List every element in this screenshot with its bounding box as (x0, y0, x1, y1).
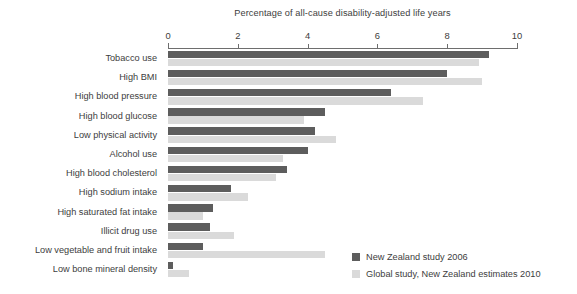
category-label: High sodium intake (0, 183, 157, 202)
category-label: Low physical activity (0, 126, 157, 145)
chart-legend: New Zealand study 2006Global study, New … (352, 248, 572, 282)
x-tick-mark (168, 43, 169, 49)
x-tick-label: 8 (445, 30, 450, 41)
x-tick-label: 2 (235, 30, 240, 41)
bar-nz-2006 (168, 262, 173, 269)
bar-global-2010 (168, 59, 479, 66)
bar-row (168, 145, 517, 164)
bar-global-2010 (168, 174, 276, 181)
legend-swatch-icon (352, 253, 360, 261)
bar-nz-2006 (168, 51, 489, 58)
x-axis-tick-labels: 0246810 (168, 30, 517, 48)
bar-nz-2006 (168, 108, 325, 115)
category-label: Tobacco use (0, 49, 157, 68)
bar-nz-2006 (168, 89, 391, 96)
x-tick-mark (517, 43, 518, 49)
bar-global-2010 (168, 155, 283, 162)
legend-label: Global study, New Zealand estimates 2010 (366, 269, 541, 279)
bar-row (168, 49, 517, 68)
legend-item: Global study, New Zealand estimates 2010 (352, 265, 572, 282)
category-label: Illicit drug use (0, 222, 157, 241)
y-axis-category-labels: Tobacco useHigh BMIHigh blood pressureHi… (0, 49, 163, 281)
x-tick-label: 4 (305, 30, 310, 41)
chart-title: Percentage of all-cause disability-adjus… (168, 8, 517, 18)
legend-swatch-icon (352, 270, 360, 278)
bar-row (168, 126, 517, 145)
bar-nz-2006 (168, 70, 447, 77)
bar-nz-2006 (168, 204, 213, 211)
bar-row (168, 222, 517, 241)
bar-row (168, 87, 517, 106)
bar-global-2010 (168, 212, 203, 219)
bar-nz-2006 (168, 223, 210, 230)
bar-row (168, 107, 517, 126)
category-label: Low bone mineral density (0, 260, 157, 279)
x-tick-mark (238, 44, 239, 49)
bar-row (168, 203, 517, 222)
x-tick-label: 0 (165, 30, 170, 41)
legend-label: New Zealand study 2006 (366, 252, 468, 262)
x-tick-label: 6 (375, 30, 380, 41)
bar-row (168, 164, 517, 183)
bar-global-2010 (168, 78, 482, 85)
bar-nz-2006 (168, 147, 308, 154)
bar-nz-2006 (168, 166, 287, 173)
category-label: High blood pressure (0, 87, 157, 106)
bar-global-2010 (168, 270, 189, 277)
category-label: High saturated fat intake (0, 203, 157, 222)
category-label: Low vegetable and fruit intake (0, 241, 157, 260)
bar-nz-2006 (168, 127, 315, 134)
category-label: High blood cholesterol (0, 164, 157, 183)
category-label: High blood glucose (0, 107, 157, 126)
legend-item: New Zealand study 2006 (352, 248, 572, 265)
x-tick-mark (377, 44, 378, 49)
disability-adjusted-life-years-bar-chart: Percentage of all-cause disability-adjus… (0, 0, 577, 294)
x-tick-mark (447, 44, 448, 49)
plot-area (168, 49, 517, 281)
bar-global-2010 (168, 116, 304, 123)
x-tick-mark (308, 44, 309, 49)
bar-global-2010 (168, 232, 234, 239)
bar-global-2010 (168, 251, 325, 258)
bar-nz-2006 (168, 243, 203, 250)
category-label: High BMI (0, 68, 157, 87)
bar-global-2010 (168, 97, 423, 104)
category-label: Alcohol use (0, 145, 157, 164)
bar-nz-2006 (168, 185, 231, 192)
bar-global-2010 (168, 193, 248, 200)
x-tick-label: 10 (512, 30, 522, 41)
bar-global-2010 (168, 136, 336, 143)
bar-row (168, 68, 517, 87)
bar-row (168, 183, 517, 202)
